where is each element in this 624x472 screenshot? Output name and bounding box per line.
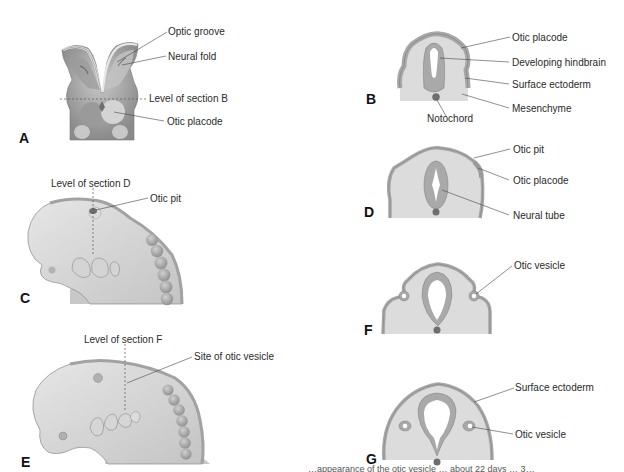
label-level-of-section-d: Level of section D bbox=[51, 178, 131, 190]
panel-letter-e: E bbox=[21, 455, 30, 469]
label-otic-pit: Otic pit bbox=[513, 144, 544, 156]
panel-e-embryo-lateral bbox=[33, 344, 210, 464]
label-mesenchyme: Mesenchyme bbox=[512, 103, 571, 115]
panel-letter-f: F bbox=[364, 323, 373, 337]
label-otic-placode: Otic placode bbox=[513, 175, 569, 187]
label-optic-groove: Optic groove bbox=[168, 26, 225, 38]
panel-letter-c: C bbox=[20, 291, 30, 305]
label-developing-hindbrain: Developing hindbrain bbox=[512, 57, 606, 69]
panel-letter-b: B bbox=[366, 92, 376, 106]
figure-artwork bbox=[0, 0, 624, 472]
label-otic-placode: Otic placode bbox=[167, 116, 223, 128]
panel-d-section bbox=[389, 148, 510, 218]
label-otic-pit: Otic pit bbox=[150, 193, 181, 205]
label-neural-fold: Neural fold bbox=[168, 51, 216, 63]
label-otic-vesicle: Otic vesicle bbox=[514, 260, 565, 272]
label-otic-placode: Otic placode bbox=[512, 32, 568, 44]
panel-letter-d: D bbox=[364, 205, 374, 219]
label-neural-tube: Neural tube bbox=[513, 210, 565, 222]
panel-c-embryo-lateral bbox=[28, 188, 182, 305]
label-level-of-section-b: Level of section B bbox=[149, 93, 228, 105]
otic-development-figure: A B C D E F G Optic groove Neural fold L… bbox=[0, 0, 624, 472]
panel-f-section bbox=[383, 264, 512, 334]
panel-g-section bbox=[384, 384, 514, 466]
panel-a-embryo-dorsal bbox=[60, 32, 167, 140]
label-surface-ectoderm: Surface ectoderm bbox=[512, 79, 591, 91]
label-surface-ectoderm: Surface ectoderm bbox=[515, 382, 594, 394]
panel-letter-a: A bbox=[19, 131, 29, 145]
label-site-of-otic-vesicle: Site of otic vesicle bbox=[194, 351, 274, 363]
panel-b-section bbox=[400, 34, 511, 116]
label-level-of-section-f: Level of section F bbox=[84, 334, 162, 346]
figure-caption-cutoff: …appearance of the otic vesicle … about … bbox=[308, 464, 535, 472]
label-notochord: Notochord bbox=[427, 113, 473, 125]
label-otic-vesicle: Otic vesicle bbox=[515, 429, 566, 441]
